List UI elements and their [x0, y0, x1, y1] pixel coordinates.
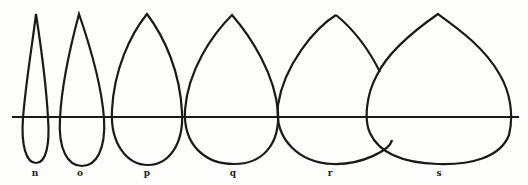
- figure: n o p q r s: [0, 0, 528, 185]
- label-s: s: [429, 168, 449, 178]
- label-o: o: [70, 168, 90, 178]
- label-r: r: [320, 168, 340, 178]
- label-p: p: [137, 168, 157, 178]
- label-n: n: [25, 168, 45, 178]
- shape-p: [112, 14, 182, 165]
- shape-o: [60, 14, 105, 166]
- shape-s: [367, 14, 511, 164]
- label-q: q: [223, 168, 243, 178]
- figure-drawing: [0, 0, 528, 185]
- shape-q: [185, 15, 278, 164]
- shape-n: [23, 14, 49, 163]
- shape-r-right: [336, 15, 380, 72]
